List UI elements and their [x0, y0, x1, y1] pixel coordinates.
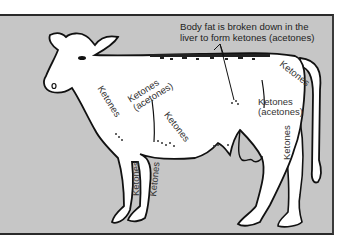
annotation-line-1: Body fat is broken down in the: [180, 21, 314, 32]
label-hind-leg-ketones: Ketones: [282, 125, 292, 160]
annotation-line-2: liver to form ketones (acetones): [180, 32, 314, 43]
label-flank-ketones-acetones: Ketones (acetones): [258, 97, 303, 117]
label-line-2: (acetones): [258, 107, 303, 117]
cow-eye: [78, 56, 86, 60]
label-front-leg-left-ketones: Ketones: [131, 161, 141, 196]
annotation-text: Body fat is broken down in the liver to …: [180, 21, 314, 43]
